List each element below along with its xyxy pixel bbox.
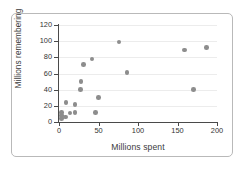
data-point <box>93 110 98 115</box>
y-axis-title: Millions remembering <box>14 1 23 97</box>
data-point <box>96 95 101 100</box>
data-point <box>59 110 64 115</box>
y-tick-label: 60 <box>30 70 52 77</box>
data-point <box>78 87 83 92</box>
x-tick-label: 100 <box>125 126 151 135</box>
x-tick-label: 0 <box>46 126 72 135</box>
data-point <box>117 40 122 45</box>
scatter-chart: Millions remembering Millions spent 0204… <box>0 0 246 171</box>
data-point <box>79 79 84 84</box>
data-point <box>81 62 86 67</box>
data-point <box>68 111 73 116</box>
data-point <box>125 70 130 75</box>
data-point <box>73 102 78 107</box>
data-point <box>90 57 95 62</box>
y-tick-label: 40 <box>30 86 52 93</box>
y-tick-label: 120 <box>30 21 52 28</box>
y-tick-label: 0 <box>30 118 52 125</box>
data-point <box>191 87 196 92</box>
y-tick-label: 80 <box>30 53 52 60</box>
data-point <box>182 48 187 53</box>
data-point <box>204 45 209 50</box>
x-axis-title: Millions spent <box>59 142 217 152</box>
y-tick-label: 100 <box>30 37 52 44</box>
plot-area <box>59 25 217 122</box>
x-tick-label: 50 <box>86 126 112 135</box>
data-point <box>73 110 78 115</box>
data-point <box>64 100 69 105</box>
x-tick-label: 200 <box>204 126 230 135</box>
x-tick-label: 150 <box>165 126 191 135</box>
data-point <box>63 115 68 120</box>
y-tick-label: 20 <box>30 102 52 109</box>
